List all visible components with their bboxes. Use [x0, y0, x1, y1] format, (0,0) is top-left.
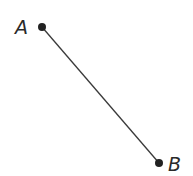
segment-diagram: A B	[0, 0, 193, 176]
point-a	[38, 23, 46, 31]
label-b: B	[168, 153, 181, 175]
label-a: A	[13, 16, 28, 38]
point-b	[155, 159, 163, 167]
segment-ab	[42, 27, 159, 163]
